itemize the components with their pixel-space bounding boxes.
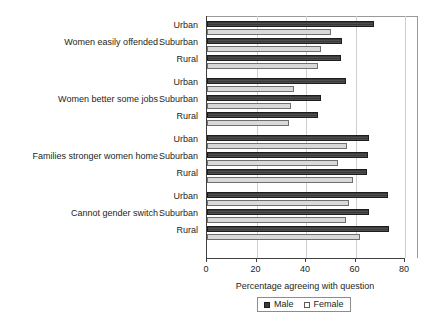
bar-row (207, 77, 404, 94)
x-tick-label-60: 60 (349, 265, 359, 274)
legend-item-female: Female (304, 300, 344, 309)
bar-row (207, 94, 404, 111)
bar-chart-figure: UrbanSuburbanRuralWomen easily offendedU… (0, 0, 429, 326)
bar-female (207, 200, 349, 206)
sub-label-rural: Rural (176, 55, 198, 64)
bar-female (207, 46, 321, 52)
sub-label-urban: Urban (173, 78, 198, 87)
bar-row (207, 111, 404, 128)
sub-label-rural: Rural (176, 226, 198, 235)
sub-label-rural: Rural (176, 112, 198, 121)
bar-row (207, 151, 404, 168)
bar-female (207, 86, 294, 92)
legend-label-male: Male (274, 300, 294, 309)
bar-female (207, 120, 289, 126)
bar-male (207, 55, 341, 61)
bar-male (207, 226, 389, 232)
x-tick-label-80: 80 (399, 265, 409, 274)
bar-female (207, 217, 346, 223)
group-label: Families stronger women home (32, 152, 158, 161)
plot-frame-right-border (417, 16, 418, 258)
bar-male (207, 152, 368, 158)
sub-label-suburban: Suburban (159, 209, 198, 218)
x-tick-label-40: 40 (300, 265, 310, 274)
bar-row (207, 37, 404, 54)
sub-label-urban: Urban (173, 192, 198, 201)
bar-row (207, 54, 404, 71)
bar-male (207, 192, 388, 198)
bar-female (207, 143, 347, 149)
bar-row (207, 208, 404, 225)
female-swatch-icon (304, 302, 310, 308)
bar-row (207, 191, 404, 208)
bar-male (207, 95, 321, 101)
sub-label-urban: Urban (173, 21, 198, 30)
x-tick-mark-40 (305, 258, 306, 262)
category-labels-panel: UrbanSuburbanRuralWomen easily offendedU… (0, 16, 202, 258)
bar-row (207, 20, 404, 37)
x-tick-label-20: 20 (250, 265, 260, 274)
sub-label-suburban: Suburban (159, 152, 198, 161)
sub-label-rural: Rural (176, 169, 198, 178)
bar-female (207, 29, 331, 35)
bar-female (207, 103, 291, 109)
bar-female (207, 177, 353, 183)
bar-female (207, 160, 338, 166)
plot-area (206, 16, 404, 258)
x-axis-title: Percentage agreeing with question (206, 281, 404, 291)
group-label: Cannot gender switch (71, 209, 158, 218)
bar-female (207, 234, 360, 240)
legend-item-male: Male (264, 300, 294, 309)
group-label: Women easily offended (64, 38, 158, 47)
x-tick-mark-60 (355, 258, 356, 262)
bar-male (207, 21, 374, 27)
bar-row (207, 168, 404, 185)
x-tick-mark-80 (404, 258, 405, 262)
sub-label-suburban: Suburban (159, 95, 198, 104)
x-tick-mark-20 (256, 258, 257, 262)
bar-row (207, 134, 404, 151)
sub-label-urban: Urban (173, 135, 198, 144)
bar-male (207, 135, 369, 141)
bar-row (207, 225, 404, 242)
bar-female (207, 63, 318, 69)
bar-male (207, 169, 367, 175)
male-swatch-icon (264, 302, 270, 308)
legend-label-female: Female (314, 300, 344, 309)
x-tick-mark-0 (206, 258, 207, 262)
bar-male (207, 78, 346, 84)
bar-male (207, 112, 318, 118)
bar-male (207, 209, 369, 215)
x-tick-label-0: 0 (203, 265, 208, 274)
bar-male (207, 38, 342, 44)
gridline-80 (405, 16, 406, 258)
group-label: Women better some jobs (58, 95, 158, 104)
chart-legend: Male Female (257, 297, 351, 312)
sub-label-suburban: Suburban (159, 38, 198, 47)
